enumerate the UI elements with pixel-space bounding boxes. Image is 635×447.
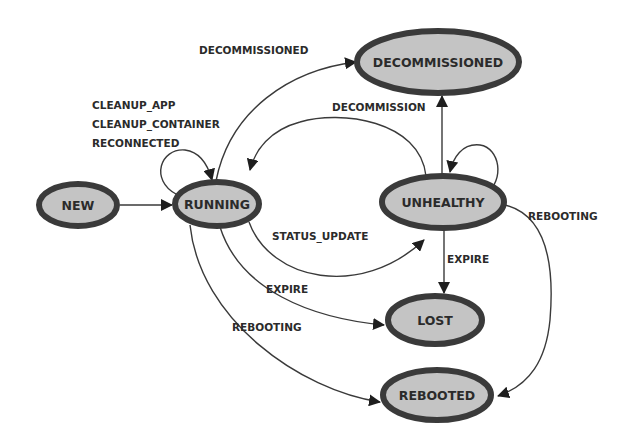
state-unhealthy: UNHEALTHY — [382, 176, 504, 228]
label-unhealthy-to-decommissioned: DECOMMISSION — [332, 101, 426, 113]
label-running-self-reconnected: RECONNECTED — [92, 137, 180, 149]
label-unhealthy-to-rebooted: REBOOTING — [528, 210, 598, 222]
state-decommissioned: DECOMMISSIONED — [357, 31, 519, 93]
state-new: NEW — [39, 184, 117, 226]
state-diagram: NEW RUNNING DECOMMISSIONED UNHEALTHY LOS… — [0, 0, 635, 447]
label-running-to-lost: EXPIRE — [266, 283, 308, 295]
state-rebooted-label: REBOOTED — [399, 388, 475, 403]
label-running-to-decommissioned: DECOMMISSIONED — [199, 44, 309, 56]
state-unhealthy-label: UNHEALTHY — [401, 195, 485, 210]
state-rebooted: REBOOTED — [383, 370, 491, 420]
state-decommissioned-label: DECOMMISSIONED — [373, 55, 503, 70]
label-running-self-cleanup-app: CLEANUP_APP — [92, 99, 176, 112]
edge-running-to-rebooted — [190, 225, 380, 402]
edge-running-to-decommissioned — [216, 62, 356, 181]
edge-unhealthy-to-rebooted — [498, 205, 551, 396]
edge-unhealthy-to-running — [250, 117, 426, 176]
state-running-label: RUNNING — [184, 197, 250, 212]
label-unhealthy-to-lost: EXPIRE — [447, 253, 489, 265]
label-running-self-cleanup-container: CLEANUP_CONTAINER — [92, 118, 220, 131]
state-lost: LOST — [388, 296, 482, 344]
label-running-to-unhealthy: STATUS_UPDATE — [272, 230, 368, 243]
state-lost-label: LOST — [417, 313, 453, 328]
label-running-to-rebooted: REBOOTING — [232, 321, 302, 333]
state-new-label: NEW — [62, 198, 95, 213]
state-running: RUNNING — [175, 182, 259, 226]
